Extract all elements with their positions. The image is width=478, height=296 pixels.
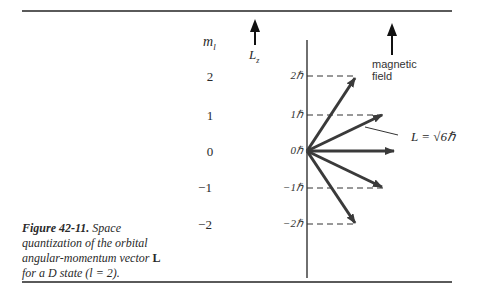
figure-caption: Figure 42-11. Space quantization of the … <box>22 221 172 281</box>
ml-value-neg1: −1 <box>190 180 220 196</box>
ml-value-2: 2 <box>195 69 225 85</box>
lz-value-1: 1ℏ <box>263 108 303 121</box>
figure-number: Figure 42-11. <box>22 221 89 235</box>
L-magnitude-label: L = √6ℏ <box>411 129 455 145</box>
lz-value-2: 2ℏ <box>263 69 303 82</box>
lz-label: Lz <box>249 47 259 65</box>
ml-label: ml <box>203 34 216 52</box>
ml-value-neg2: −2 <box>190 217 220 233</box>
lz-value-neg1: −1ℏ <box>263 181 303 194</box>
ml-value-0: 0 <box>195 144 225 160</box>
ml-value-1: 1 <box>195 108 225 124</box>
lz-value-neg2: −2ℏ <box>263 217 303 230</box>
magnetic-field-label: magnetic field <box>372 58 417 82</box>
lz-value-0: 0ℏ <box>263 144 303 157</box>
